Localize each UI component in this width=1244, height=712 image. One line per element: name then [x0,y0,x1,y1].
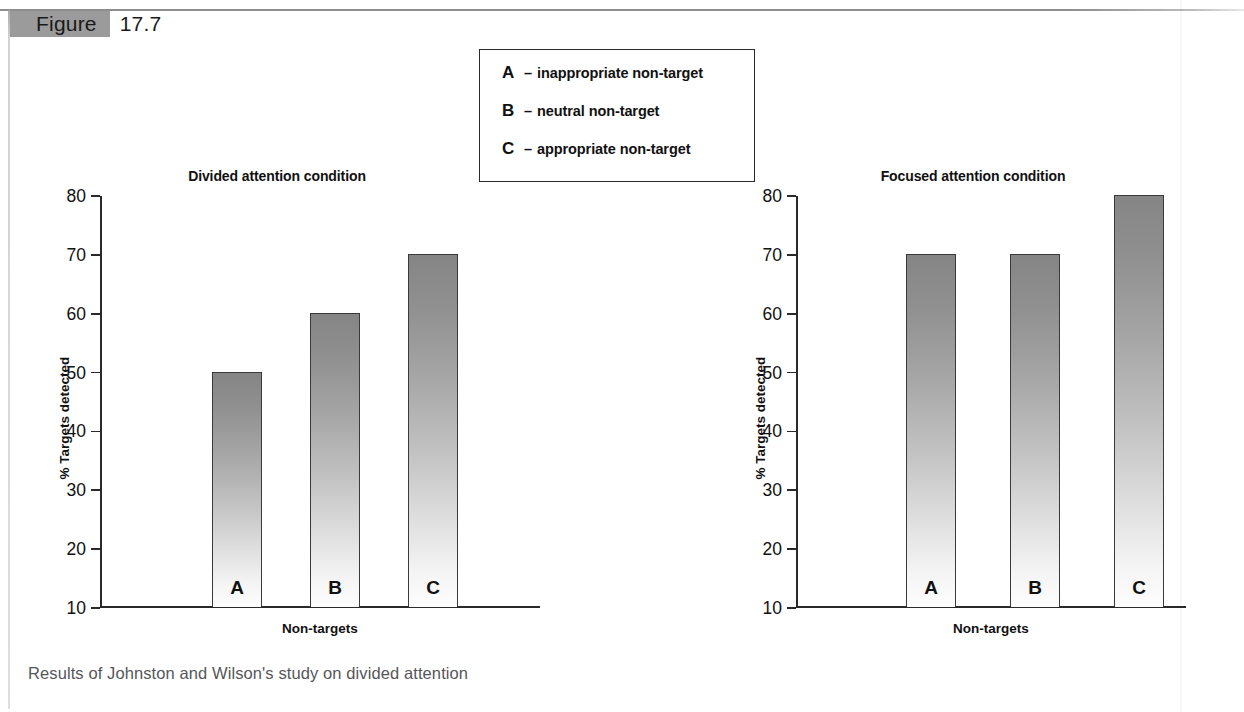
legend-dash-c: – [524,141,532,157]
bar-category-label: A [907,577,955,599]
y-axis-tick [787,431,796,433]
y-axis-tick [787,548,796,550]
y-axis-tick-label: 60 [763,303,782,324]
figure-caption: Results of Johnston and Wilson's study o… [28,664,468,683]
y-axis-line [100,196,102,608]
chart-focused-attention: Focused attention condition % Targets de… [718,168,1188,638]
bar-category-label: B [1011,577,1059,599]
figure-header: Figure 17.7 [10,11,171,37]
legend-box: A – inappropriate non-target B – neutral… [479,49,755,182]
y-axis-tick [91,254,100,256]
bar-c: C [1114,195,1164,607]
y-axis-tick-label: 70 [763,244,782,265]
y-axis-tick [91,431,100,433]
y-axis-tick-label: 20 [67,539,86,560]
bar-b: B [310,313,360,607]
legend-text-c: appropriate non-target [537,141,690,157]
y-axis-tick [91,313,100,315]
bar-a: A [212,372,262,607]
figure-label: Figure [10,11,110,37]
y-axis-tick [787,489,796,491]
page-top-rule [0,9,1244,11]
bar-category-label: A [213,577,261,599]
y-axis-tick-label: 70 [67,244,86,265]
y-axis-tick-label: 40 [763,421,782,442]
y-axis-tick [91,372,100,374]
legend-text-a: inappropriate non-target [537,65,703,81]
legend-key-a: A [502,63,524,83]
y-axis-tick [787,313,796,315]
y-axis-tick [787,195,796,197]
y-axis-tick-label: 10 [67,598,86,619]
chart-y-axis-label: % Targets detected [57,320,72,480]
y-axis-tick-label: 80 [67,186,86,207]
y-axis-tick [91,195,100,197]
bar-category-label: C [1115,577,1163,599]
legend-dash-b: – [524,103,532,119]
legend-item-b: B – neutral non-target [502,101,754,121]
chart-x-axis-label: Non-targets [100,621,540,636]
y-axis-tick [91,607,100,609]
legend-item-a: A – inappropriate non-target [502,63,754,83]
y-axis-tick-label: 10 [763,598,782,619]
y-axis-tick-label: 40 [67,421,86,442]
y-axis-line [796,196,798,608]
bar-category-label: B [311,577,359,599]
legend-dash-a: – [524,65,532,81]
chart-y-axis-label: % Targets detected [753,320,768,480]
figure-page: Figure 17.7 A – inappropriate non-target… [0,0,1244,712]
y-axis-tick-label: 30 [763,480,782,501]
legend-item-c: C – appropriate non-target [502,139,754,159]
y-axis-tick-label: 80 [763,186,782,207]
plot-area: 8070605040302010ABC [100,196,540,608]
y-axis-tick-label: 50 [763,362,782,383]
legend-text-b: neutral non-target [537,103,659,119]
y-axis-tick [787,254,796,256]
chart-x-axis-label: Non-targets [796,621,1186,636]
figure-number: 17.7 [110,11,172,37]
legend-key-b: B [502,101,524,121]
bar-category-label: C [409,577,457,599]
bar-b: B [1010,254,1060,607]
chart-title: Focused attention condition [773,168,1173,184]
y-axis-tick-label: 30 [67,480,86,501]
plot-area: 8070605040302010ABC [796,196,1186,608]
y-axis-tick [787,607,796,609]
page-left-rule [8,9,10,709]
y-axis-tick-label: 50 [67,362,86,383]
y-axis-tick [91,489,100,491]
y-axis-tick [91,548,100,550]
bar-c: C [408,254,458,607]
y-axis-tick [787,372,796,374]
bar-a: A [906,254,956,607]
legend-key-c: C [502,139,524,159]
chart-title: Divided attention condition [77,168,477,184]
y-axis-tick-label: 60 [67,303,86,324]
chart-divided-attention: Divided attention condition % Targets de… [22,168,542,638]
y-axis-tick-label: 20 [763,539,782,560]
